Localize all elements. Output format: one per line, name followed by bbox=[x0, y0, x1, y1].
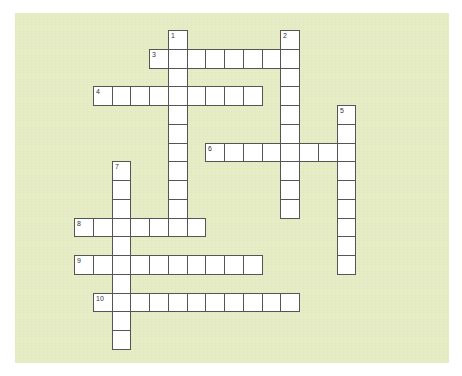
crossword-letter-input[interactable] bbox=[169, 125, 187, 143]
crossword-cell[interactable] bbox=[243, 255, 263, 275]
crossword-letter-input[interactable] bbox=[113, 162, 130, 180]
crossword-cell[interactable]: 6 bbox=[205, 143, 225, 162]
crossword-letter-input[interactable] bbox=[94, 294, 112, 311]
crossword-cell[interactable] bbox=[168, 255, 188, 275]
crossword-cell[interactable] bbox=[187, 86, 206, 106]
crossword-letter-input[interactable] bbox=[131, 294, 149, 311]
crossword-letter-input[interactable] bbox=[169, 87, 187, 105]
crossword-cell[interactable] bbox=[187, 293, 206, 312]
crossword-cell[interactable] bbox=[224, 255, 244, 275]
crossword-cell[interactable] bbox=[262, 143, 281, 162]
crossword-letter-input[interactable] bbox=[225, 50, 243, 68]
crossword-letter-input[interactable] bbox=[113, 200, 130, 218]
crossword-cell[interactable] bbox=[112, 218, 131, 237]
crossword-cell[interactable] bbox=[337, 255, 356, 275]
crossword-letter-input[interactable] bbox=[169, 106, 187, 124]
crossword-cell[interactable] bbox=[168, 218, 188, 237]
crossword-letter-input[interactable] bbox=[281, 200, 299, 218]
crossword-letter-input[interactable] bbox=[338, 219, 355, 236]
crossword-letter-input[interactable] bbox=[94, 256, 112, 274]
crossword-letter-input[interactable] bbox=[131, 87, 149, 105]
crossword-cell[interactable] bbox=[168, 180, 188, 200]
crossword-letter-input[interactable] bbox=[244, 256, 262, 274]
crossword-letter-input[interactable] bbox=[113, 256, 130, 274]
crossword-cell[interactable] bbox=[112, 180, 131, 200]
crossword-letter-input[interactable] bbox=[131, 219, 149, 236]
crossword-cell[interactable] bbox=[130, 255, 150, 275]
crossword-cell[interactable] bbox=[205, 49, 225, 69]
crossword-cell[interactable] bbox=[187, 255, 206, 275]
crossword-letter-input[interactable] bbox=[244, 87, 262, 105]
crossword-letter-input[interactable] bbox=[150, 87, 168, 105]
crossword-cell[interactable] bbox=[93, 218, 113, 237]
crossword-cell[interactable] bbox=[112, 236, 131, 256]
crossword-letter-input[interactable] bbox=[113, 87, 130, 105]
crossword-letter-input[interactable] bbox=[169, 31, 187, 49]
crossword-cell[interactable] bbox=[168, 199, 188, 219]
crossword-cell[interactable] bbox=[130, 218, 150, 237]
crossword-letter-input[interactable] bbox=[281, 50, 299, 68]
crossword-letter-input[interactable] bbox=[113, 275, 130, 293]
crossword-letter-input[interactable] bbox=[113, 294, 130, 311]
crossword-cell[interactable]: 9 bbox=[74, 255, 94, 275]
crossword-letter-input[interactable] bbox=[281, 294, 299, 311]
crossword-cell[interactable]: 5 bbox=[337, 105, 356, 125]
crossword-cell[interactable]: 10 bbox=[93, 293, 113, 312]
crossword-cell[interactable] bbox=[168, 68, 188, 87]
crossword-letter-input[interactable] bbox=[206, 87, 224, 105]
crossword-cell[interactable] bbox=[337, 218, 356, 237]
crossword-letter-input[interactable] bbox=[113, 331, 130, 349]
crossword-cell[interactable] bbox=[280, 86, 300, 106]
crossword-cell[interactable] bbox=[337, 124, 356, 144]
crossword-letter-input[interactable] bbox=[206, 144, 224, 161]
crossword-letter-input[interactable] bbox=[169, 200, 187, 218]
crossword-letter-input[interactable] bbox=[319, 144, 337, 161]
crossword-letter-input[interactable] bbox=[131, 256, 149, 274]
crossword-cell[interactable] bbox=[280, 293, 300, 312]
crossword-letter-input[interactable] bbox=[281, 144, 299, 161]
crossword-letter-input[interactable] bbox=[75, 256, 93, 274]
crossword-cell[interactable] bbox=[112, 311, 131, 331]
crossword-cell[interactable] bbox=[280, 199, 300, 219]
crossword-letter-input[interactable] bbox=[244, 294, 262, 311]
crossword-letter-input[interactable] bbox=[188, 87, 205, 105]
crossword-letter-input[interactable] bbox=[263, 50, 280, 68]
crossword-letter-input[interactable] bbox=[281, 106, 299, 124]
crossword-cell[interactable] bbox=[337, 236, 356, 256]
crossword-letter-input[interactable] bbox=[225, 87, 243, 105]
crossword-letter-input[interactable] bbox=[169, 219, 187, 236]
crossword-cell[interactable] bbox=[112, 330, 131, 350]
crossword-cell[interactable] bbox=[318, 143, 338, 162]
crossword-letter-input[interactable] bbox=[188, 294, 205, 311]
crossword-letter-input[interactable] bbox=[281, 69, 299, 86]
crossword-cell[interactable] bbox=[112, 199, 131, 219]
crossword-letter-input[interactable] bbox=[338, 237, 355, 255]
crossword-letter-input[interactable] bbox=[263, 294, 280, 311]
crossword-letter-input[interactable] bbox=[281, 87, 299, 105]
crossword-cell[interactable] bbox=[243, 49, 263, 69]
crossword-letter-input[interactable] bbox=[169, 50, 187, 68]
crossword-letter-input[interactable] bbox=[281, 162, 299, 180]
crossword-cell[interactable] bbox=[130, 86, 150, 106]
crossword-letter-input[interactable] bbox=[300, 144, 318, 161]
crossword-letter-input[interactable] bbox=[113, 312, 130, 330]
crossword-cell[interactable]: 8 bbox=[74, 218, 94, 237]
crossword-cell[interactable] bbox=[168, 49, 188, 69]
crossword-cell[interactable] bbox=[262, 49, 281, 69]
crossword-letter-input[interactable] bbox=[338, 256, 355, 274]
crossword-cell[interactable] bbox=[187, 49, 206, 69]
crossword-cell[interactable] bbox=[149, 86, 169, 106]
crossword-letter-input[interactable] bbox=[169, 69, 187, 86]
crossword-cell[interactable] bbox=[337, 199, 356, 219]
crossword-letter-input[interactable] bbox=[113, 181, 130, 199]
crossword-letter-input[interactable] bbox=[150, 256, 168, 274]
crossword-cell[interactable] bbox=[243, 86, 263, 106]
crossword-letter-input[interactable] bbox=[263, 144, 280, 161]
crossword-cell[interactable]: 2 bbox=[280, 30, 300, 50]
crossword-cell[interactable] bbox=[280, 105, 300, 125]
crossword-letter-input[interactable] bbox=[244, 144, 262, 161]
crossword-cell[interactable] bbox=[168, 86, 188, 106]
crossword-cell[interactable] bbox=[224, 49, 244, 69]
crossword-cell[interactable] bbox=[93, 255, 113, 275]
crossword-cell[interactable] bbox=[205, 255, 225, 275]
